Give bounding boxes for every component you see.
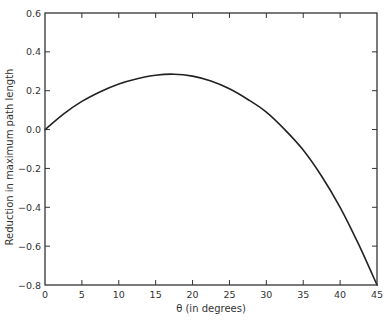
x-tick-label: 15 — [150, 289, 162, 300]
x-tick-label: 20 — [187, 289, 199, 300]
x-tick-label: 30 — [260, 289, 272, 300]
x-tick-label: 25 — [223, 289, 235, 300]
axis-ticks — [45, 13, 377, 285]
y-tick-label: −0.2 — [18, 163, 41, 174]
x-tick-label: 5 — [79, 289, 85, 300]
x-tick-labels: 051015202530354045 — [42, 289, 383, 300]
chart: −0.8−0.6−0.4−0.20.00.20.40.6 05101520253… — [0, 0, 392, 324]
x-tick-label: 0 — [42, 289, 48, 300]
y-tick-label: −0.8 — [18, 280, 41, 291]
x-tick-label: 40 — [334, 289, 346, 300]
y-tick-labels: −0.8−0.6−0.4−0.20.00.20.40.6 — [18, 8, 41, 291]
x-tick-label: 35 — [297, 289, 309, 300]
y-axis-label: Reduction in maximum path length — [4, 69, 15, 246]
y-tick-label: 0.4 — [26, 46, 41, 57]
y-tick-label: 0.6 — [26, 8, 41, 19]
y-tick-label: −0.4 — [18, 202, 41, 213]
x-tick-label: 10 — [113, 289, 125, 300]
y-tick-label: 0.2 — [26, 85, 41, 96]
y-tick-label: −0.6 — [18, 241, 41, 252]
plot-frame — [45, 13, 377, 285]
x-tick-label: 45 — [371, 289, 383, 300]
data-curve — [45, 74, 377, 285]
x-axis-label: θ (in degrees) — [176, 303, 246, 314]
y-tick-label: 0.0 — [26, 124, 41, 135]
